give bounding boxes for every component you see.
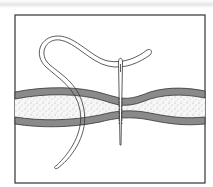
needle-thread-illustration: [0, 0, 213, 187]
